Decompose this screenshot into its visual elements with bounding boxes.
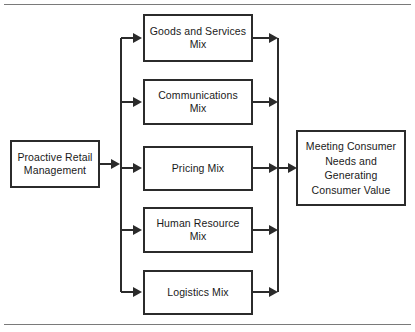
diagram-canvas: Proactive Retail Management Goods and Se…	[0, 0, 415, 332]
node-label: Proactive Retail Management	[17, 151, 92, 178]
node-human-resource-mix: Human Resource Mix	[143, 207, 253, 253]
arrow-spine-to-pricing-icon	[133, 163, 142, 173]
arrow-spine-to-communications-icon	[133, 97, 142, 107]
node-logistics-mix: Logistics Mix	[143, 270, 253, 315]
arrow-spine-to-logistics-icon	[133, 287, 142, 297]
arrow-spine-to-human-resource-icon	[133, 225, 142, 235]
node-label: Human Resource Mix	[156, 217, 239, 244]
arrow-spine-to-goods-icon	[133, 33, 142, 43]
node-label: Pricing Mix	[172, 162, 224, 176]
node-pricing-mix: Pricing Mix	[143, 146, 253, 191]
node-label: Logistics Mix	[167, 286, 228, 300]
node-proactive-retail-management: Proactive Retail Management	[10, 140, 100, 188]
node-label: Meeting Consumer Needs and Generating Co…	[306, 139, 396, 197]
left-distribution-spine	[120, 38, 122, 292]
right-collection-spine	[277, 38, 279, 292]
node-meeting-consumer-needs: Meeting Consumer Needs and Generating Co…	[296, 130, 406, 206]
node-goods-and-services-mix: Goods and Services Mix	[143, 14, 253, 62]
bottom-rule	[4, 324, 411, 325]
arrow-source-to-spine-icon	[111, 159, 120, 169]
node-communications-mix: Communications Mix	[143, 79, 253, 125]
node-label: Communications Mix	[158, 89, 238, 116]
top-rule	[4, 4, 411, 5]
node-label: Goods and Services Mix	[150, 25, 246, 52]
